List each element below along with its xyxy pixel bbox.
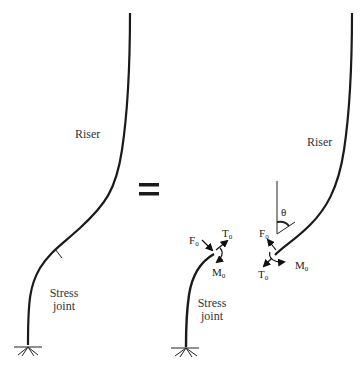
equals-sign	[139, 183, 159, 196]
diagram-graphics	[0, 0, 362, 371]
label-t0-lower: T0	[222, 227, 232, 243]
left-stress-joint-label: Stress joint	[44, 287, 84, 313]
angle-arc-icon	[277, 222, 289, 226]
right-stress-joint-line2: joint	[192, 310, 232, 323]
label-f0-lower: F0	[189, 234, 199, 250]
label-f0-upper: F0	[259, 227, 269, 243]
fixed-support-icon-right	[171, 348, 199, 357]
label-m0-lower: M0	[212, 266, 225, 282]
right-stress-joint-label: Stress joint	[192, 297, 232, 323]
left-riser-label: Riser	[75, 128, 100, 141]
riser-free-body-diagram: Riser Stress joint Riser Stress joint θ …	[0, 0, 362, 371]
joint-tick-mark	[55, 249, 62, 258]
right-riser-label: Riser	[307, 136, 332, 149]
fixed-support-icon-left	[14, 347, 42, 356]
tension-arrow-t0-upper	[264, 258, 272, 266]
left-stress-joint-line2: joint	[44, 300, 84, 313]
angle-theta-label: θ	[281, 206, 286, 218]
force-arrow-f0-lower	[202, 240, 212, 250]
label-t0-upper: T0	[258, 268, 268, 284]
force-arrow-f0-upper	[268, 240, 276, 250]
label-m0-upper: M0	[295, 259, 308, 275]
moment-arrow-m0-lower	[217, 248, 222, 262]
